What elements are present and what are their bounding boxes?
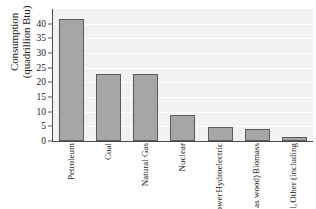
- y-axis-tick-labels: 0510152025303540: [28, 0, 46, 209]
- y-axis-tick-label: 25: [37, 63, 47, 73]
- y-axis-tick-label: 5: [41, 121, 46, 131]
- x-axis-label-slot: Petroleum: [53, 143, 90, 209]
- x-axis-category-label-line: Natural Gas: [141, 143, 150, 186]
- x-axis-label-slot: Coal: [90, 143, 127, 209]
- bar-slot: [127, 9, 164, 141]
- bar[interactable]: [133, 74, 158, 141]
- bar[interactable]: [208, 127, 233, 141]
- x-axis-category-label-line: Power: [215, 193, 224, 209]
- bar[interactable]: [59, 19, 84, 141]
- bar-chart: Consumption (quadrillion Btu) 0510152025…: [0, 0, 316, 209]
- x-axis-label-slot: HydroelectricPower: [202, 143, 239, 209]
- x-axis-category-label: HydroelectricPower: [215, 143, 224, 209]
- bar-slot: [239, 9, 276, 141]
- x-axis-category-label-line: Nuclear: [178, 143, 187, 171]
- y-axis-tick-label: 20: [37, 77, 47, 87]
- x-axis-category-label: Petroleum: [67, 143, 76, 180]
- bar-slot: [276, 9, 313, 141]
- bar-slot: [202, 9, 239, 141]
- x-axis-category-label-line: Coal: [104, 143, 113, 160]
- y-axis-line: [52, 9, 53, 142]
- x-axis-label-slot: Natural Gas: [127, 143, 164, 209]
- x-axis-category-label-line: Hydroelectric: [215, 143, 224, 192]
- x-axis-line: [52, 141, 313, 142]
- bar-slot: [164, 9, 201, 141]
- x-axis-category-label: Coal: [104, 143, 113, 160]
- bar[interactable]: [170, 115, 195, 141]
- x-axis-category-label: Nuclear: [178, 143, 187, 171]
- x-axis-label-slot: Other (includinggeothermal,wind, and sol…: [276, 143, 313, 209]
- y-axis-tick-label: 15: [37, 92, 47, 102]
- y-axis-tick-label: 30: [37, 48, 47, 58]
- plot-area: [53, 9, 313, 141]
- x-axis-label-slot: Biomass(such as wood): [239, 143, 276, 209]
- x-axis-category-label-line: (such as wood): [253, 175, 262, 209]
- x-axis-category-label-line: Other (including: [290, 143, 299, 203]
- y-axis-tick-label: 35: [37, 33, 47, 43]
- x-axis-category-label-line: geothermal,: [290, 204, 299, 209]
- y-axis-tick-label: 40: [37, 19, 47, 29]
- x-axis-category-labels: PetroleumCoalNatural GasNuclearHydroelec…: [53, 143, 313, 209]
- bar-slot: [90, 9, 127, 141]
- x-axis-label-slot: Nuclear: [164, 143, 201, 209]
- x-axis-category-label: Other (includinggeothermal,wind, and sol…: [290, 143, 299, 209]
- x-axis-category-label-line: Petroleum: [67, 143, 76, 180]
- bar[interactable]: [245, 129, 270, 141]
- x-axis-category-label: Natural Gas: [141, 143, 150, 186]
- x-axis-category-label-line: Biomass: [253, 143, 262, 174]
- y-axis-tick-label: 0: [41, 136, 46, 146]
- bar-slot: [53, 9, 90, 141]
- bar[interactable]: [96, 74, 121, 141]
- y-axis-tick-label: 10: [37, 107, 47, 117]
- bars-group: [53, 9, 313, 141]
- x-axis-category-label: Biomass(such as wood): [253, 143, 262, 209]
